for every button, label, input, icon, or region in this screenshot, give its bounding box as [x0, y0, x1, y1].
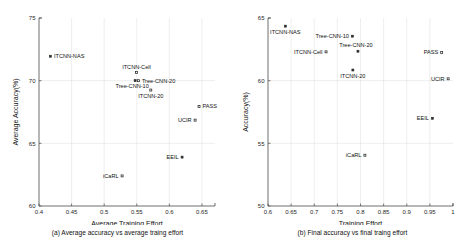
data-point-label: ITCNN-Cell — [122, 64, 151, 70]
data-point-label: PASS — [424, 49, 439, 55]
data-point-label: ITCNN-Cell — [294, 49, 323, 55]
data-point-marker — [284, 25, 286, 27]
x-tick-label: 0.95 — [424, 209, 436, 215]
data-point-marker — [194, 119, 196, 121]
data-point-marker — [121, 175, 123, 177]
scatter-plot-b: 0.60.650.70.750.80.850.90.95150556065Tra… — [235, 0, 470, 225]
data-point-marker — [351, 35, 353, 37]
data-point-label: iCaRL — [103, 173, 119, 179]
data-point-marker — [198, 105, 200, 107]
data-point-marker — [447, 78, 449, 80]
data-point-label: Tree-CNN-20 — [339, 42, 372, 48]
figure-container: 0.40.450.50.550.60.6560657075Average Tra… — [0, 0, 470, 249]
data-point-label: iCaRL — [346, 152, 362, 158]
x-axis-title: Training Effort — [339, 220, 383, 225]
chart-panel-b: 0.60.650.70.750.80.850.90.95150556065Tra… — [235, 0, 470, 249]
scatter-plot-a: 0.40.450.50.550.60.6560657075Average Tra… — [0, 0, 235, 225]
data-point-label: ITCNN-20 — [340, 73, 365, 79]
panel-a-caption: (a) Average accuracy vs average traing e… — [0, 229, 235, 236]
data-point-label: Tree-CNN-10 — [115, 83, 148, 89]
data-point-marker — [150, 89, 152, 91]
x-tick-label: 0.7 — [310, 209, 319, 215]
x-tick-label: 0.9 — [403, 209, 412, 215]
x-tick-label: 0.45 — [66, 209, 78, 215]
x-tick-label: 0.6 — [264, 209, 273, 215]
data-point-marker — [441, 51, 443, 53]
x-axis-title: Average Training Effort — [91, 220, 162, 225]
data-point-label: UCIR — [178, 117, 192, 123]
y-tick-label: 60 — [258, 78, 265, 84]
data-point-marker — [181, 156, 183, 158]
data-point-marker — [352, 69, 354, 71]
x-tick-label: 0.85 — [378, 209, 390, 215]
data-point-label: ITCNN-20 — [138, 93, 163, 99]
y-tick-label: 55 — [258, 141, 265, 147]
data-point-label: Tree-CNN-20 — [142, 78, 175, 84]
x-tick-label: 0.55 — [131, 209, 143, 215]
x-tick-label: 0.75 — [332, 209, 344, 215]
chart-panel-a: 0.40.450.50.550.60.6560657075Average Tra… — [0, 0, 235, 249]
y-tick-label: 65 — [258, 15, 265, 21]
data-point-label: ITCNN-NAS — [270, 29, 301, 35]
data-point-marker — [134, 80, 136, 82]
panel-b-caption: (b) Final accuracy vs final traing effor… — [235, 229, 470, 236]
x-tick-label: 0.5 — [100, 209, 109, 215]
x-tick-label: 0.8 — [356, 209, 365, 215]
data-point-label: ITCNN-NAS — [54, 53, 85, 59]
y-tick-label: 65 — [29, 141, 36, 147]
x-tick-label: 0.4 — [35, 209, 44, 215]
x-tick-label: 1 — [451, 209, 455, 215]
y-axis-title: Accuracy(%) — [242, 92, 250, 132]
data-point-marker — [431, 117, 433, 119]
y-axis-title: Average Accuracy(%) — [12, 78, 20, 145]
x-tick-label: 0.65 — [285, 209, 297, 215]
data-point-marker — [325, 51, 327, 53]
data-point-label: EEIL — [417, 115, 429, 121]
data-point-label: UCIR — [431, 76, 445, 82]
x-tick-label: 0.6 — [165, 209, 174, 215]
data-point-marker — [49, 55, 51, 57]
data-point-marker — [135, 72, 137, 74]
y-tick-label: 60 — [29, 203, 36, 209]
y-tick-label: 50 — [258, 203, 265, 209]
data-point-label: PASS — [203, 103, 218, 109]
data-point-label: EEIL — [166, 154, 178, 160]
data-point-marker — [357, 50, 359, 52]
x-tick-label: 0.65 — [196, 209, 208, 215]
y-tick-label: 70 — [29, 78, 36, 84]
data-point-marker — [364, 154, 366, 156]
data-point-label: Tree-CNN-10 — [316, 33, 349, 39]
y-tick-label: 75 — [29, 15, 36, 21]
